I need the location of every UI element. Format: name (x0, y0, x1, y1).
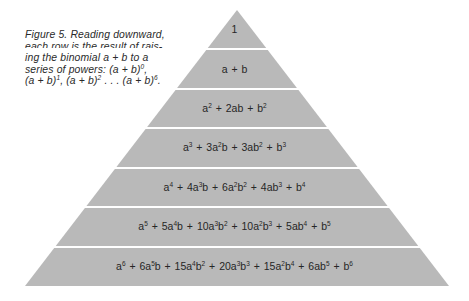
row-power-6: a6 + 6a5b + 15a4b2 + 20a3b3 + 15a2b4 + 6… (0, 260, 469, 272)
row-power-0: 1 (0, 23, 469, 35)
row-separator (0, 206, 469, 208)
row-power-1: a + b (0, 63, 469, 75)
row-separator (0, 48, 469, 50)
row-separator (0, 127, 469, 129)
row-separator (0, 167, 469, 169)
row-power-5: a5 + 5a4b + 10a3b2 + 10a2b3 + 5ab4 + b5 (0, 220, 469, 232)
row-power-4: a4 + 4a3b + 6a2b2 + 4ab3 + b4 (0, 181, 469, 193)
row-power-2: a2 + 2ab + b2 (0, 102, 469, 114)
row-separator (0, 246, 469, 248)
row-power-3: a3 + 3a2b + 3ab2 + b3 (0, 141, 469, 153)
row-separator (0, 88, 469, 90)
